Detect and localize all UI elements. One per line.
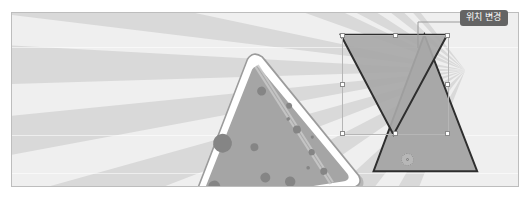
tooltip-position-change: 위치 변경 [460,10,508,26]
screenshot-root: 위치 변경 [0,0,530,206]
tooltip-label: 위치 변경 [466,12,502,22]
slide-canvas[interactable] [11,12,519,187]
triangle-group[interactable] [12,13,518,186]
move-cursor-icon [401,153,414,166]
